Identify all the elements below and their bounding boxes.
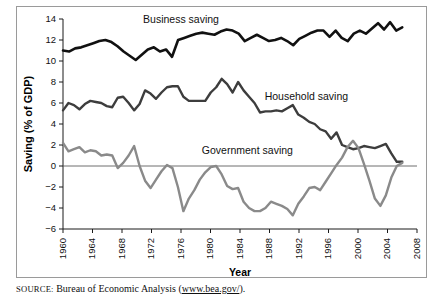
y-axis-tick-label: 2 (51, 139, 56, 150)
x-axis-tick-label: 1992 (293, 238, 304, 259)
y-axis-tick-label: 6 (51, 97, 56, 108)
x-axis-tick-label: 1960 (57, 238, 68, 259)
y-axis-tick-label: 14 (45, 13, 56, 24)
x-axis-tick-label: 1968 (116, 238, 127, 259)
series-label-government-saving: Government saving (202, 144, 293, 156)
x-axis-tick-label: 2000 (352, 238, 363, 259)
series-label-business-saving: Business saving (143, 13, 219, 25)
saving-line-chart: −6−4−20246810121419601964196819721976198… (17, 7, 428, 279)
y-axis-tick-label: 8 (51, 76, 56, 87)
series-line-business-saving (63, 22, 402, 60)
source-note: SOURCE: Bureau of Economic Analysis (www… (16, 283, 245, 294)
source-suffix: ). (239, 283, 245, 294)
x-axis-tick-label: 1972 (145, 238, 156, 259)
x-axis-tick-label: 1984 (234, 238, 245, 259)
source-label: SOURCE: (16, 284, 54, 294)
y-axis-title: Saving (% of GDP) (22, 75, 34, 172)
y-axis-tick-label: −6 (45, 223, 56, 234)
y-axis-tick-label: 4 (51, 118, 56, 129)
x-axis-tick-label: 1996 (322, 238, 333, 259)
y-axis-tick-label: 12 (45, 34, 56, 45)
series-label-household-saving: Household saving (265, 90, 349, 102)
chart-text-layer: −6−4−20246810121419601964196819721976198… (22, 13, 422, 278)
chart-svg: −6−4−20246810121419601964196819721976198… (17, 7, 428, 279)
y-axis-tick-label: −4 (45, 202, 56, 213)
x-axis-tick-label: 2008 (411, 238, 422, 259)
source-url-link[interactable]: www.bea.gov/ (182, 283, 240, 294)
x-axis-tick-label: 1980 (204, 238, 215, 259)
source-agency: Bureau of Economic Analysis ( (56, 283, 182, 294)
x-axis-title: Year (229, 266, 251, 278)
y-axis-tick-label: 10 (45, 55, 56, 66)
y-axis-tick-label: 0 (51, 160, 56, 171)
x-axis-tick-label: 2004 (381, 238, 392, 259)
figure-border-box: −6−4−20246810121419601964196819721976198… (16, 6, 427, 278)
x-axis-tick-label: 1976 (175, 238, 186, 259)
chart-axes (59, 19, 417, 233)
x-axis-tick-label: 1964 (86, 238, 97, 259)
y-axis-tick-label: −2 (45, 181, 56, 192)
x-axis-tick-label: 1988 (263, 238, 274, 259)
chart-series-group (63, 22, 402, 215)
